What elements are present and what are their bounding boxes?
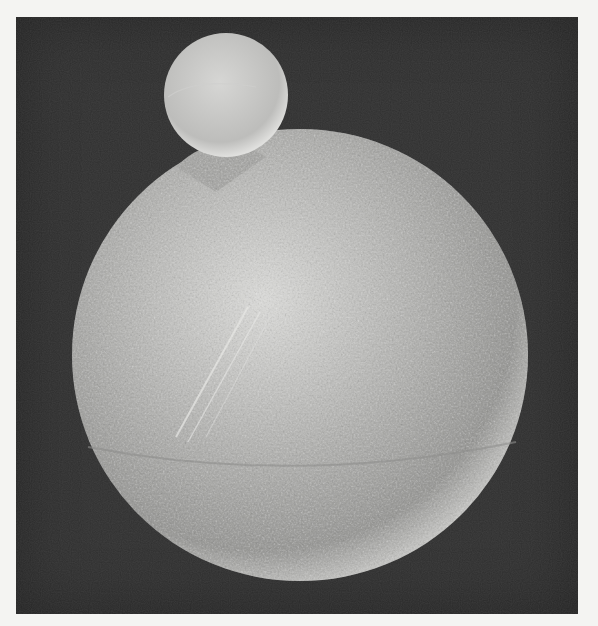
large-sphere bbox=[72, 129, 528, 581]
micrograph-image bbox=[16, 17, 578, 614]
micrograph-frame bbox=[16, 17, 578, 614]
